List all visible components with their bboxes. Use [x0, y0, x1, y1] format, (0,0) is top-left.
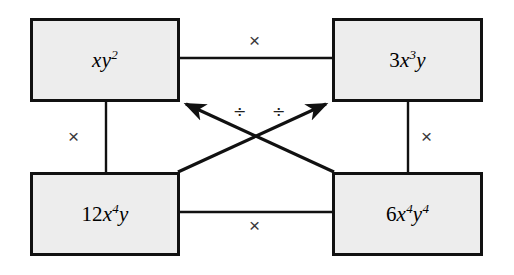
node-box-top-left[interactable]: xy2 — [30, 18, 180, 102]
connector-diagonal-to-top-right — [178, 104, 326, 172]
connector-diagonal-to-top-left — [186, 104, 334, 172]
operator-diagonal-right-divide: ÷ — [272, 104, 285, 120]
operator-bottom-times: × — [249, 216, 260, 235]
node-label-top-right: 3x3y — [389, 48, 425, 73]
node-box-bottom-right[interactable]: 6x4y4 — [332, 172, 483, 256]
operator-top-times: × — [249, 31, 260, 50]
operator-left-times: × — [68, 127, 79, 146]
node-label-top-left: xy2 — [92, 48, 118, 73]
node-label-bottom-left: 12x4y — [81, 202, 128, 227]
diagram-canvas: xy2 3x3y 12x4y 6x4y4 × × × × ÷ ÷ — [0, 0, 514, 275]
node-label-bottom-right: 6x4y4 — [386, 202, 429, 227]
operator-right-times: × — [421, 127, 432, 146]
node-box-top-right[interactable]: 3x3y — [332, 18, 483, 102]
operator-diagonal-left-divide: ÷ — [233, 104, 246, 120]
node-box-bottom-left[interactable]: 12x4y — [30, 172, 180, 256]
